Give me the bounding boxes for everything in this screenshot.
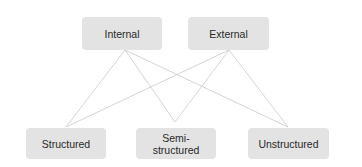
node-label: Internal xyxy=(104,28,139,40)
edge-internal-unstructured xyxy=(125,50,288,127)
node-label: Semi- structured xyxy=(153,132,200,156)
node-semi-structured: Semi- structured xyxy=(136,128,216,159)
edge-external-semi xyxy=(175,50,229,122)
node-internal: Internal xyxy=(82,17,162,50)
edge-external-unstructured xyxy=(229,50,288,127)
node-label: External xyxy=(209,28,248,40)
node-label: Structured xyxy=(42,138,90,150)
edge-internal-structured xyxy=(66,50,125,127)
edge-external-structured xyxy=(66,50,229,127)
node-external: External xyxy=(188,17,269,50)
node-structured: Structured xyxy=(26,128,106,159)
node-unstructured: Unstructured xyxy=(248,128,329,159)
node-label: Unstructured xyxy=(258,138,318,150)
edge-internal-semi xyxy=(125,50,175,122)
